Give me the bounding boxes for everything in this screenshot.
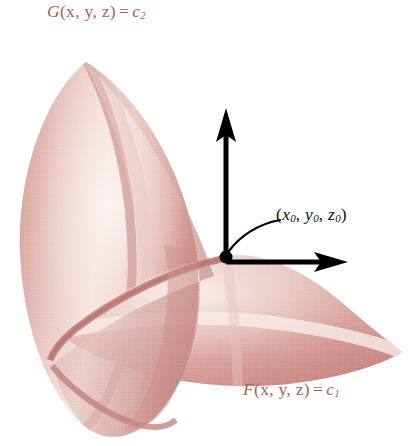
point-leader-line xyxy=(229,220,280,251)
upper-surface-label-constant: c xyxy=(132,1,140,21)
lower-surface-label-function: F xyxy=(243,379,254,399)
point-label-comma-2: , xyxy=(319,204,328,224)
point-marker xyxy=(220,251,233,264)
surface-diagram-canvas xyxy=(0,0,409,446)
point-label-y: y xyxy=(305,204,313,224)
upper-surface-label-subscript: 2 xyxy=(140,9,146,21)
upper-surface-label-variables: (x, y, z) xyxy=(60,1,116,21)
upper-surface-label-function: G xyxy=(47,1,60,21)
lower-surface-label-variables: (x, y, z) xyxy=(254,379,310,399)
lower-surface-label-equals: = xyxy=(310,379,326,399)
lower-surface-label: F(x, y, z)=c1 xyxy=(243,381,340,399)
lower-surface-label-subscript: 1 xyxy=(334,387,340,399)
upper-surface-label: G(x, y, z)=c2 xyxy=(47,3,146,21)
point-label-comma-1: , xyxy=(296,204,305,224)
figure-root: G(x, y, z)=c2 F(x, y, z)=c1 (x0, y0, z0) xyxy=(0,0,409,446)
point-label: (x0, y0, z0) xyxy=(276,206,347,224)
point-label-close-paren: ) xyxy=(341,204,347,224)
axes-group xyxy=(216,108,348,272)
upper-surface-label-equals: = xyxy=(116,1,132,21)
point-label-x: x xyxy=(282,204,290,224)
